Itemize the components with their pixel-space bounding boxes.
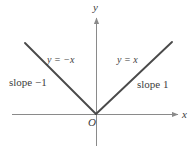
graph-canvas	[0, 0, 193, 150]
equation-label-right: y = x	[117, 54, 138, 65]
equation-label-left: y = −x	[47, 54, 74, 65]
origin-label: O	[88, 116, 96, 128]
slope-label-left: slope −1	[9, 76, 47, 88]
x-axis-label: x	[182, 108, 187, 120]
y-axis-label: y	[93, 1, 98, 13]
graph-figure: y x O y = −x y = x slope −1 slope 1	[0, 0, 193, 150]
slope-label-right: slope 1	[137, 78, 168, 90]
